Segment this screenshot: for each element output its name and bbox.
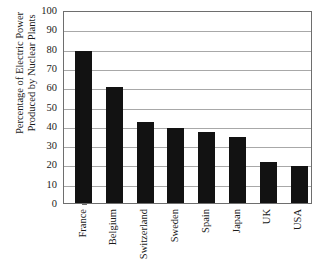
y-axis-tick-labels: 0102030405060708090100	[24, 11, 57, 204]
x-axis-tick-label-slot: France	[75, 205, 91, 275]
x-axis-tick-label: France	[77, 209, 88, 238]
bar	[75, 51, 92, 203]
x-axis-tick-label-slot: UK	[259, 205, 275, 275]
x-axis-tick-label: Switzerland	[139, 209, 150, 259]
y-axis-tick-label: 0	[24, 199, 57, 210]
x-axis-tick-label-slot: Japan	[229, 205, 245, 275]
x-axis-tick-label-slot: USA	[290, 205, 306, 275]
x-axis-tick-label-slot: Switzerland	[136, 205, 152, 275]
x-axis-tick-label-slot: Belgium	[105, 205, 121, 275]
x-axis-tick-label-slot: Sweden	[167, 205, 183, 275]
y-axis-tick-label: 60	[24, 83, 57, 94]
bars-layer	[64, 12, 311, 203]
y-axis-tick-label: 70	[24, 64, 57, 75]
x-axis-tick-label: Japan	[231, 209, 242, 233]
x-axis-tick-label: Belgium	[108, 209, 119, 245]
bar	[291, 166, 308, 203]
bar	[229, 137, 246, 203]
plot-area	[63, 11, 312, 204]
bar-chart: Percentage of Electric Power Produced by…	[0, 0, 328, 275]
y-axis-tick-label: 80	[24, 44, 57, 55]
y-axis-tick-label: 10	[24, 179, 57, 190]
bar	[198, 132, 215, 203]
x-axis-tick-label-slot: Spain	[198, 205, 214, 275]
y-axis-tick-label: 40	[24, 122, 57, 133]
y-axis-tick-label: 30	[24, 141, 57, 152]
bar	[167, 128, 184, 203]
bar	[260, 162, 277, 203]
y-axis-tick-label: 100	[24, 6, 57, 17]
x-axis-tick-label: Sweden	[170, 209, 181, 242]
x-axis-tick-labels: FranceBelgiumSwitzerlandSwedenSpainJapan…	[63, 205, 312, 275]
x-axis-tick-label: USA	[293, 209, 304, 230]
y-axis-tick-label: 20	[24, 160, 57, 171]
bar	[106, 87, 123, 203]
y-axis-tick-label: 50	[24, 102, 57, 113]
bar	[137, 122, 154, 203]
x-axis-tick-label: Spain	[200, 209, 211, 233]
y-axis-tick-label: 90	[24, 25, 57, 36]
x-axis-tick-label: UK	[262, 209, 273, 224]
